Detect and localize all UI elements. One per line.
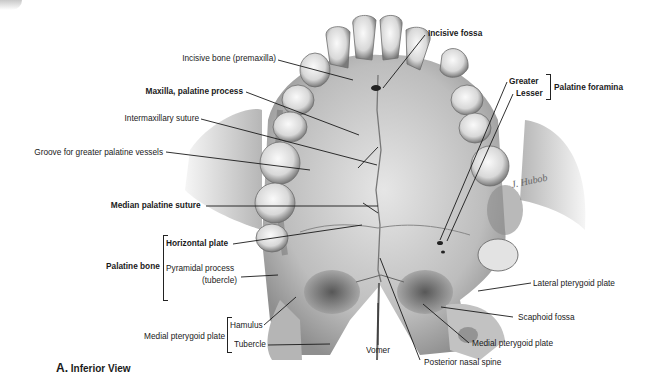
label-posterior-nasal-spine: Posterior nasal spine [424, 357, 501, 368]
label-pyramidal-process-tubercle: (tubercle) [202, 275, 237, 286]
label-scaphoid-fossa: Scaphoid fossa [518, 312, 575, 323]
label-groove-greater-palatine-vessels: Groove for greater palatine vessels [34, 147, 163, 158]
tooth-premolar-2-right [459, 113, 491, 143]
bracket-palatine-foramina [546, 74, 551, 100]
label-horizontal-plate: Horizontal plate [166, 238, 228, 249]
tooth-canine-right [440, 49, 468, 78]
tooth-central-incisor-right [380, 15, 402, 60]
label-vomer: Vomer [366, 345, 390, 356]
tooth-premolar-1-right [451, 85, 483, 115]
label-lesser: Lesser [516, 88, 543, 99]
hard-palate-illustration: J. Hubob [0, 0, 653, 391]
tooth-lateral-incisor-left [326, 27, 350, 68]
label-palatine-bone: Palatine bone [106, 261, 160, 272]
caption-letter: A. [56, 361, 68, 375]
label-medial-pterygoid-plate-group: Medial pterygoid plate [144, 331, 225, 342]
label-palatine-foramina: Palatine foramina [554, 82, 623, 93]
label-incisive-bone: Incisive bone (premaxilla) [182, 53, 276, 64]
tooth-molar-1-right [471, 146, 509, 186]
caption-text: Inferior View [71, 363, 131, 374]
figure-caption: A. Inferior View [56, 361, 131, 375]
zygomatic-process-left [185, 109, 262, 230]
label-greater: Greater [509, 76, 538, 87]
tooth-premolar-2-left [273, 112, 307, 142]
label-median-palatine-suture: Median palatine suture [111, 200, 201, 211]
tooth-molar-1-left [260, 142, 300, 184]
label-hamulus: Hamulus [230, 320, 263, 331]
label-incisive-fossa: Incisive fossa [428, 28, 482, 39]
label-intermaxillary-suture: Intermaxillary suture [124, 113, 199, 124]
tooth-molar-2-left [255, 183, 295, 223]
tooth-premolar-1-left [282, 85, 314, 115]
label-pyramidal-process: Pyramidal process [166, 263, 234, 274]
label-medial-pterygoid-plate: Medial pterygoid plate [472, 338, 553, 349]
label-maxilla-palatine-process: Maxilla, palatine process [145, 86, 243, 97]
label-lateral-pterygoid-plate: Lateral pterygoid plate [533, 278, 615, 289]
label-tubercle: Tubercle [234, 339, 266, 350]
tooth-central-incisor-left [353, 15, 376, 60]
